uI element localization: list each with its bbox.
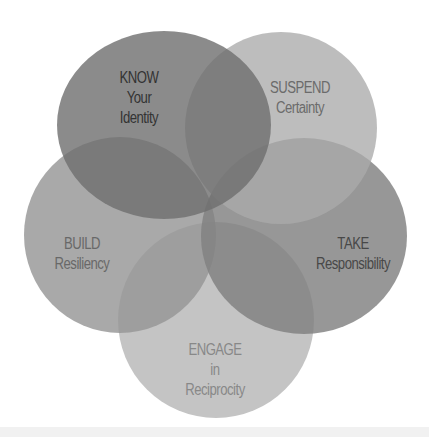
label-build: BUILD Resiliency xyxy=(33,234,131,274)
label-take-line1: TAKE xyxy=(296,234,411,254)
label-build-line1: BUILD xyxy=(33,234,131,254)
label-know-line1: KNOW xyxy=(94,68,184,88)
label-know-line3: Identity xyxy=(94,108,184,128)
label-engage-line3: Reciprocity xyxy=(166,380,264,400)
label-suspend-line1: SUSPEND xyxy=(251,78,349,98)
label-take-line2: Responsibility xyxy=(296,254,411,274)
venn-diagram: KNOW Your Identity SUSPEND Certainty BUI… xyxy=(0,0,429,437)
bottom-band xyxy=(0,427,429,437)
label-know: KNOW Your Identity xyxy=(94,68,184,128)
label-suspend-line2: Certainty xyxy=(251,98,349,118)
label-engage-line1: ENGAGE xyxy=(166,340,264,360)
label-engage: ENGAGE in Reciprocity xyxy=(166,340,264,400)
label-build-line2: Resiliency xyxy=(33,254,131,274)
label-take: TAKE Responsibility xyxy=(296,234,411,274)
label-know-line2: Your xyxy=(94,88,184,108)
label-suspend: SUSPEND Certainty xyxy=(251,78,349,118)
label-engage-line2: in xyxy=(166,360,264,380)
